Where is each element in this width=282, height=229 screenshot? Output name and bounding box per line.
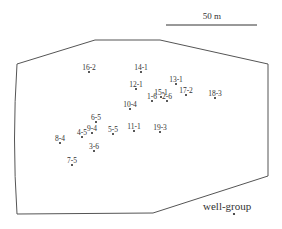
well-label: 19-3: [153, 123, 167, 132]
well-point: 19-3: [153, 123, 167, 133]
well-point: 12-1: [129, 80, 143, 90]
well-point: 7-5: [67, 156, 77, 166]
legend: well-group: [203, 200, 252, 215]
well-point: 17-2: [179, 86, 193, 96]
well-point: 3-6: [89, 142, 99, 152]
well-label: 6-5: [91, 113, 101, 122]
well-label: 7-5: [67, 156, 77, 165]
scale-bar-label: 50 m: [203, 11, 221, 21]
well-label: 16-2: [82, 63, 96, 72]
well-point: 2-6: [162, 92, 172, 102]
well-label: 18-3: [208, 89, 222, 98]
well-label: 2-6: [162, 92, 172, 101]
well-label: 12-1: [129, 80, 143, 89]
well-label: 10-4: [123, 100, 137, 109]
well-label: 13-1: [169, 75, 183, 84]
well-points: 16-214-112-113-117-218-315-11-62-610-46-…: [55, 63, 222, 166]
well-label: 17-2: [179, 86, 193, 95]
well-label: 8-4: [55, 134, 65, 143]
legend-label: well-group: [203, 200, 252, 212]
well-label: 11-1: [127, 122, 141, 131]
well-label: 14-1: [134, 63, 148, 72]
legend-well-marker-icon: [233, 213, 235, 215]
well-label: 5-5: [108, 125, 118, 134]
well-point: 8-4: [55, 134, 65, 144]
well-point: 4-5: [77, 128, 87, 138]
well-point: 16-2: [82, 63, 96, 73]
well-point: 18-3: [208, 89, 222, 99]
well-label: 3-6: [89, 142, 99, 151]
well-point: 10-4: [123, 100, 137, 110]
well-point: 9-4: [87, 124, 97, 134]
well-point: 11-1: [127, 122, 141, 132]
well-point: 13-1: [169, 75, 183, 85]
scale-bar: 50 m: [166, 11, 257, 25]
well-label: 1-6: [147, 92, 157, 101]
well-label: 4-5: [77, 128, 87, 137]
well-label: 9-4: [87, 124, 97, 133]
well-point: 1-6: [147, 92, 157, 102]
well-point: 6-5: [91, 113, 101, 123]
well-point: 5-5: [108, 125, 118, 135]
well-map-diagram: 50 m 16-214-112-113-117-218-315-11-62-61…: [0, 0, 282, 229]
well-point: 14-1: [134, 63, 148, 73]
